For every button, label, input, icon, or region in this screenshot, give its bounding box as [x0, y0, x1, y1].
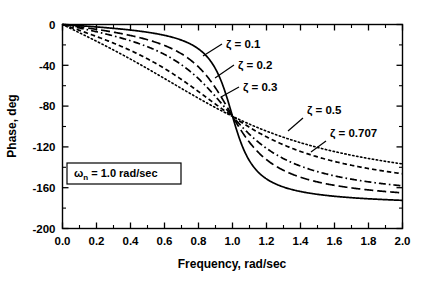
y-tick-label: -80	[39, 100, 56, 112]
x-tick-label: 1.4	[293, 235, 310, 247]
x-tick-label: 1.2	[259, 235, 275, 247]
x-tick-label: 0.0	[55, 235, 71, 247]
y-tick-label: -160	[32, 182, 55, 194]
x-tick-label: 1.8	[361, 235, 378, 247]
annotation-zeta-05: ζ = 0.5	[307, 104, 342, 117]
x-tick-label: 1.6	[327, 235, 343, 247]
annotation-zeta-02: ζ = 0.2	[238, 59, 272, 72]
y-tick-label: -120	[32, 141, 55, 153]
y-tick-label: -40	[39, 60, 56, 72]
y-tick-label: -200	[32, 223, 55, 235]
chart-page: 0.00.20.40.60.81.01.21.41.61.82.0 0-40-8…	[0, 0, 422, 282]
annotation-zeta-0707: ζ = 0.707	[330, 127, 377, 140]
y-axis-title: Phase, deg	[5, 94, 19, 157]
phase-frequency-chart: 0.00.20.40.60.81.01.21.41.61.82.0 0-40-8…	[0, 0, 422, 282]
x-tick-label: 0.4	[123, 235, 140, 247]
x-tick-label: 0.8	[191, 235, 208, 247]
x-tick-label: 0.6	[157, 235, 173, 247]
x-tick-label: 1.0	[225, 235, 241, 247]
x-axis-title: Frequency, rad/sec	[178, 257, 287, 271]
omega-n-note: ωn = 1.0 rad/sec	[67, 163, 181, 184]
annotation-zeta-01: ζ = 0.1	[226, 38, 261, 51]
x-tick-label: 2.0	[395, 235, 411, 247]
x-tick-label: 0.2	[89, 235, 105, 247]
annotation-zeta-03: ζ = 0.3	[243, 81, 277, 94]
y-tick-label: 0	[49, 19, 55, 31]
